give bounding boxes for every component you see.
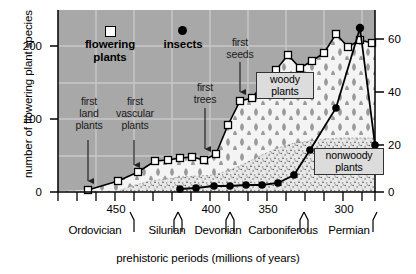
legend-insects-label: insects (150, 38, 216, 51)
y-tick-label-0: 0 (8, 186, 42, 198)
annotation-first-vascular-plants-line3: plants (106, 120, 164, 132)
x-axis-ticks (58, 192, 375, 201)
x-tick-label-300: 300 (324, 203, 364, 215)
chart-figure: number of flowering plant species 0 100 … (0, 0, 416, 274)
x-axis-title: prehistoric periods (millions of years) (0, 252, 416, 264)
legend-flowering-plants-label-line2: plants (70, 51, 150, 64)
y2-tick-label-20: 20 (388, 139, 416, 151)
y-tick-label-200: 200 (8, 40, 42, 52)
y2-tick-label-0: 0 (388, 186, 416, 198)
area-label-woody-line2: plants (260, 86, 310, 98)
x-tick-label-450: 450 (96, 203, 136, 215)
legend-flowering-plants-label-line1: flowering (70, 38, 150, 51)
annotation-first-trees-line1: first (181, 82, 229, 94)
area-label-nonwoody-line2: plants (318, 162, 380, 174)
area-label-nonwoody-plants: nonwoody plants (314, 148, 384, 175)
period-label-permian: Permian (310, 224, 388, 236)
x-tick-label-350: 350 (248, 203, 288, 215)
area-label-woody-line1: woody (260, 74, 310, 86)
y2-tick-label-60: 60 (388, 33, 416, 45)
area-label-nonwoody-line1: nonwoody (318, 150, 380, 162)
area-label-woody-plants: woody plants (256, 72, 314, 99)
y-tick-label-100: 100 (8, 113, 42, 125)
annotation-first-seeds-line2: seeds (216, 49, 264, 61)
y2-tick-label-40: 40 (388, 86, 416, 98)
annotation-first-vascular-plants-line1: first (106, 96, 164, 108)
period-label-ordovician: Ordovician (58, 224, 132, 236)
annotation-first-seeds-line1: first (216, 37, 264, 49)
y-axis-title: number of flowering plant species (22, 0, 34, 194)
legend-insects-marker (178, 26, 187, 35)
legend-flowering-plants-marker (105, 26, 116, 37)
annotation-first-trees-line2: trees (181, 94, 229, 106)
annotation-first-vascular-plants-line2: vascular (106, 108, 164, 120)
y-axis-ticks (50, 46, 58, 192)
x-tick-label-400: 400 (191, 203, 231, 215)
